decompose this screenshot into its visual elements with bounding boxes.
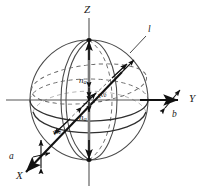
vibration-arrows-a xyxy=(33,140,50,168)
label-na-upper: na xyxy=(79,76,87,86)
label-b: b xyxy=(172,110,177,120)
label-a: a xyxy=(9,152,14,162)
label-l: l xyxy=(148,25,151,35)
label-na-upper-sub: a xyxy=(84,78,87,85)
label-na-lower: na xyxy=(79,113,87,123)
leader-line-l xyxy=(130,36,146,53)
figure-canvas: Z Y X a b l na na nb nb xyxy=(0,0,209,192)
axis-label-x: X xyxy=(16,170,23,181)
label-na-lower-sub: a xyxy=(84,115,87,122)
axis-label-y: Y xyxy=(189,93,195,104)
axis-label-z: Z xyxy=(84,4,90,15)
